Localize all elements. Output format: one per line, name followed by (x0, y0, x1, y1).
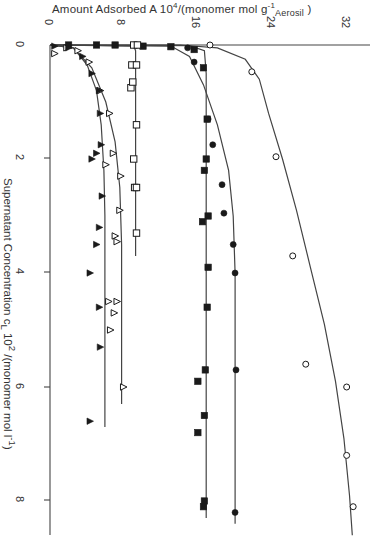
open-circle-marker (273, 154, 279, 160)
filled-square-marker (195, 378, 201, 384)
open-circle-marker (344, 452, 350, 458)
filled-circle-marker (185, 45, 191, 51)
filled-triangle-marker (96, 304, 103, 310)
filled-square-marker (168, 44, 174, 50)
filled-triangle-marker (94, 150, 101, 156)
filled-triangle-marker (89, 156, 96, 162)
data-markers (52, 42, 357, 516)
filled-circle-marker (191, 59, 197, 65)
fitted-curves (50, 45, 352, 535)
filled-square-marker (202, 367, 208, 373)
filled-square-marker (204, 304, 210, 310)
filled-square-marker (200, 504, 206, 510)
filled-triangle-marker (94, 241, 101, 247)
plot-area (0, 0, 385, 548)
open-triangles-curve (50, 45, 122, 404)
filled-triangle-marker (89, 70, 96, 76)
open-triangle-marker (114, 298, 121, 304)
filled-triangle-marker (87, 418, 94, 424)
open-square-marker (134, 42, 140, 48)
open-triangle-marker (52, 50, 59, 56)
filled-square-marker (112, 42, 118, 48)
filled-triangle-marker (97, 344, 104, 350)
open-circles-curve (50, 45, 352, 535)
filled-circle-marker (210, 142, 216, 148)
filled-square-marker (201, 167, 207, 173)
open-square-marker (133, 184, 139, 190)
filled-triangle-marker (96, 224, 103, 230)
open-circle-marker (290, 253, 296, 259)
open-triangle-marker (112, 233, 119, 239)
open-triangle-marker (107, 110, 114, 116)
filled-circle-marker (232, 270, 238, 276)
filled-square-marker (200, 65, 206, 71)
filled-circle-marker (230, 242, 236, 248)
open-squares-curve (50, 45, 136, 256)
adsorption-isotherm-chart: Amount Adsorbed A 104/(monomer mol g-1Ae… (0, 0, 385, 548)
filled-square-marker (93, 42, 99, 48)
open-circle-marker (303, 361, 309, 367)
filled-triangle-marker (52, 43, 59, 49)
open-triangle-marker (118, 173, 125, 179)
open-square-marker (133, 230, 139, 236)
filled-circle-marker (221, 210, 227, 216)
filled-square-marker (199, 219, 205, 225)
open-circle-marker (249, 69, 255, 75)
filled-square-marker (191, 46, 197, 52)
filled-square-marker (204, 116, 210, 122)
open-triangle-marker (103, 162, 110, 168)
open-circle-marker (344, 384, 350, 390)
open-triangle-marker (120, 384, 127, 390)
filled-circle-marker (233, 367, 239, 373)
open-triangle-marker (107, 327, 114, 333)
open-square-marker (131, 156, 137, 162)
open-triangle-marker (114, 238, 121, 244)
filled-square-marker (205, 264, 211, 270)
open-square-marker (133, 62, 139, 68)
open-triangle-marker (111, 310, 118, 316)
filled-squares-curve (50, 45, 206, 518)
filled-square-marker (203, 156, 209, 162)
filled-triangle-marker (98, 142, 105, 148)
filled-square-marker (195, 429, 201, 435)
filled-circle-marker (232, 509, 238, 515)
filled-circle-marker (219, 182, 225, 188)
filled-square-marker (201, 412, 207, 418)
filled-triangle-marker (87, 270, 94, 276)
open-circle-marker (207, 42, 213, 48)
open-square-marker (133, 122, 139, 128)
filled-triangles-curve (50, 45, 105, 427)
open-triangle-marker (106, 298, 113, 304)
open-circle-marker (350, 504, 356, 510)
open-square-marker (130, 79, 136, 85)
